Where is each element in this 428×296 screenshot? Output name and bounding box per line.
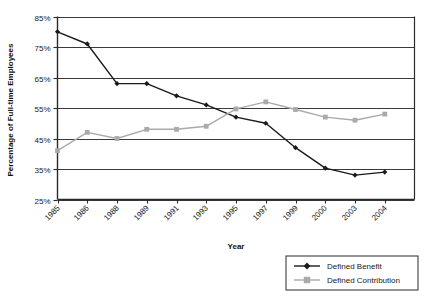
data-point[interactable]	[204, 124, 209, 129]
data-point[interactable]	[353, 118, 358, 123]
data-point[interactable]	[85, 130, 90, 135]
square-icon	[304, 277, 310, 283]
chart-container: 25%35%45%55%65%75%85% 198519861988198919…	[0, 0, 428, 296]
data-point[interactable]	[115, 136, 120, 141]
y-tick-label: 35%	[34, 166, 50, 175]
y-tick-label: 75%	[34, 44, 50, 53]
legend-label-defined-benefit: Defined Benefit	[327, 262, 382, 271]
x-axis-title: Year	[228, 242, 245, 251]
data-point[interactable]	[293, 107, 298, 112]
data-point[interactable]	[382, 112, 387, 117]
y-tick-label: 25%	[34, 197, 50, 206]
y-tick-label: 65%	[34, 75, 50, 84]
y-tick-label: 55%	[34, 105, 50, 114]
y-tick-label: 45%	[34, 136, 50, 145]
y-tick-label: 85%	[34, 14, 50, 23]
data-point[interactable]	[263, 100, 268, 105]
chart-legend: Defined Benefit Defined Contribution	[286, 256, 418, 290]
data-point[interactable]	[323, 115, 328, 120]
line-chart: 25%35%45%55%65%75%85% 198519861988198919…	[0, 0, 428, 296]
chart-background	[0, 0, 428, 296]
data-point[interactable]	[55, 148, 60, 153]
legend-label-defined-contribution: Defined Contribution	[327, 276, 400, 285]
data-point[interactable]	[234, 107, 239, 112]
y-axis-title: Percentage of Full-time Employees	[6, 43, 15, 176]
data-point[interactable]	[144, 127, 149, 132]
data-point[interactable]	[174, 127, 179, 132]
